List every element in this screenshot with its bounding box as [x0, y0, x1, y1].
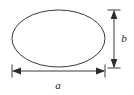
ellipse-outline	[12, 10, 105, 67]
width-arrowhead-right	[96, 68, 105, 75]
height-arrowhead-bottom	[111, 59, 118, 68]
width-dimension-label: a	[55, 79, 61, 91]
width-arrowhead-left	[12, 68, 21, 75]
height-dimension-label: b	[121, 32, 127, 44]
figure-container: a b	[0, 0, 134, 95]
height-arrowhead-top	[111, 10, 118, 19]
ellipse-dimension-diagram: a b	[0, 0, 134, 95]
